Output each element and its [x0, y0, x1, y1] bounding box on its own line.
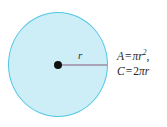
circle-center-point — [54, 61, 62, 69]
area-formula-trailing-comma: , — [147, 50, 150, 62]
area-formula-equals: = — [124, 50, 133, 62]
radius-line — [58, 64, 108, 66]
circumference-formula: C=2πr — [117, 64, 149, 80]
circumference-formula-variable: r — [145, 65, 149, 77]
circumference-formula-equals: = — [125, 65, 134, 77]
area-formula-lhs: A — [117, 50, 124, 62]
radius-label: r — [78, 50, 82, 61]
circle-area-circumference-figure: r A=πr2, C=2πr — [0, 0, 167, 127]
circumference-formula-lhs: C — [117, 65, 125, 77]
area-formula: A=πr2, — [117, 48, 149, 64]
formula-block: A=πr2, C=2πr — [117, 48, 149, 80]
